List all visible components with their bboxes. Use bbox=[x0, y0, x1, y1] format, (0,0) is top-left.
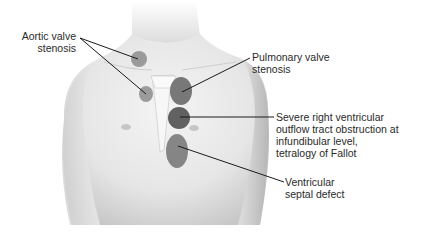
rvot-label: Severe right ventricular outflow tract o… bbox=[276, 111, 399, 159]
vsd-marker bbox=[166, 134, 188, 168]
neck bbox=[132, 1, 200, 43]
aortic-label: Aortic valve stenosis bbox=[18, 30, 76, 54]
vsd-label: Ventricular septal defect bbox=[285, 176, 345, 200]
aortic-upper-marker bbox=[131, 51, 147, 67]
pulmonary-marker bbox=[170, 77, 192, 105]
pulmonary-label: Pulmonary valve stenosis bbox=[252, 51, 330, 75]
rvot-marker bbox=[168, 107, 190, 129]
chest-murmur-diagram: Aortic valve stenosis Pulmonary valve st… bbox=[0, 0, 423, 236]
left-nipple bbox=[121, 124, 131, 130]
right-nipple bbox=[189, 125, 199, 131]
